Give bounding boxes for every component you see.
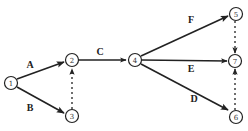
node-6: 6 [230,111,243,124]
edge-label-d: D [190,93,197,104]
node-2: 2 [66,54,79,67]
network-diagram: 1 2 3 4 5 7 6 A B C F E D [0,0,248,131]
node-3: 3 [66,110,79,123]
node-6-label: 6 [234,114,239,122]
edge-e [142,60,227,61]
node-1-label: 1 [9,80,13,88]
node-7: 7 [229,55,242,68]
node-5: 5 [230,8,243,21]
node-4-label: 4 [133,57,138,65]
edge-f [141,16,228,56]
edge-d [141,64,228,110]
node-4: 4 [129,54,142,67]
edge-label-e: E [188,63,195,74]
node-3-label: 3 [70,113,74,121]
edge-b [17,87,64,113]
node-2-label: 2 [70,57,74,65]
edge-label-f: F [188,14,194,25]
edge-label-b: B [27,102,34,113]
diagram-svg: 1 2 3 4 5 7 6 A B C F E D [0,0,248,131]
edge-label-c: C [96,46,103,57]
node-5-label: 5 [234,11,238,19]
node-7-label: 7 [233,58,237,66]
node-1: 1 [5,77,18,90]
edge-a [17,62,64,79]
edge-label-a: A [26,59,34,70]
